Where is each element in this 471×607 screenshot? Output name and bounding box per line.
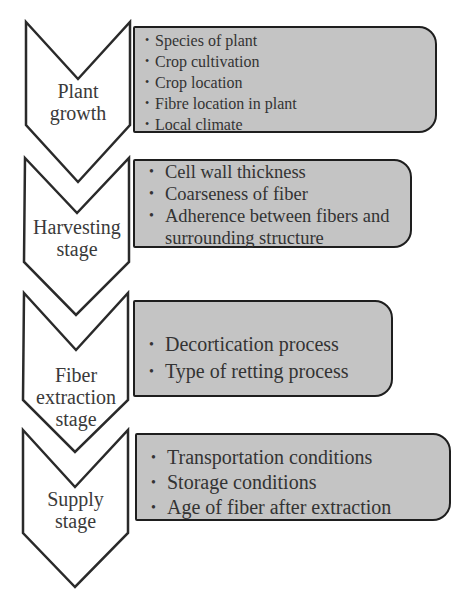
stage-label-line: stage	[23, 408, 129, 430]
factor-box-plant-growth: Species of plant Crop cultivation Crop l…	[133, 26, 437, 133]
factor-item: Age of fiber after extraction	[145, 495, 449, 520]
factor-item-continuation: surrounding structure	[143, 227, 410, 249]
factor-item: Type of retting process	[143, 358, 391, 385]
stage-label-line: Fiber	[23, 364, 129, 386]
factor-box-supply: Transportation conditions Storage condit…	[135, 433, 451, 521]
stage-label-line: extraction	[23, 386, 129, 408]
stage-label-plant-growth: Plant growth	[26, 80, 130, 124]
stage-label-fiber-extraction: Fiber extraction stage	[23, 364, 129, 430]
factor-item: Storage conditions	[145, 470, 449, 495]
factor-item: Crop location	[145, 72, 435, 93]
stage-label-line: stage	[24, 238, 130, 260]
factor-item: Local climate	[145, 114, 435, 135]
factor-item: Crop cultivation	[145, 51, 435, 72]
factor-item: Transportation conditions	[145, 445, 449, 470]
factor-item: Fibre location in plant	[145, 93, 435, 114]
stage-label-line: Harvesting	[24, 216, 130, 238]
stage-label-line: stage	[23, 510, 128, 532]
factor-box-harvesting: Cell wall thickness Coarseness of fiber …	[133, 159, 412, 248]
stage-label-line: Plant	[26, 80, 130, 102]
factor-box-fiber-extraction: Decortication process Type of retting pr…	[133, 300, 393, 397]
factor-item: Adherence between fibers and	[143, 205, 410, 227]
stage-label-line: Supply	[23, 488, 128, 510]
factor-item: Coarseness of fiber	[143, 183, 410, 205]
factor-item: Species of plant	[145, 30, 435, 51]
factor-item: Decortication process	[143, 331, 391, 358]
stage-label-supply: Supply stage	[23, 488, 128, 532]
factor-item: Cell wall thickness	[143, 161, 410, 183]
stage-label-harvesting: Harvesting stage	[24, 216, 130, 260]
stage-label-line: growth	[26, 102, 130, 124]
